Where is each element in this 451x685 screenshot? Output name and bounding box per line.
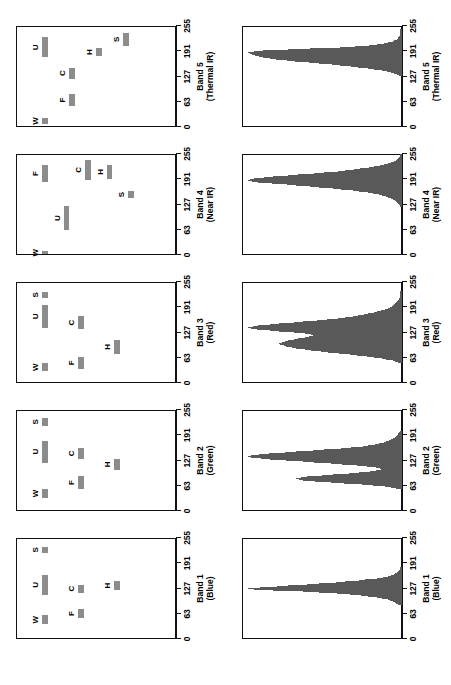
axis-tick [402,510,407,511]
histogram-panel [242,538,402,639]
axis-tick-label: 255 [408,403,418,417]
axis-tick-label: 0 [408,125,418,130]
signature-panel [16,410,176,511]
axis-tick [402,434,407,435]
class-tag-u: U [31,45,40,51]
band-name: Band 4 [195,190,205,218]
panel-group-a: 063127191255Band 1(Blue)063127191255Band… [228,0,450,685]
axis-tick [176,101,181,102]
axis-tick [176,613,181,614]
class-tag-f: F [67,360,76,365]
signature-range-bar [114,581,120,591]
class-tag-c: C [58,70,67,76]
signature-range-bar [78,476,84,489]
axis-tick-label: 0 [182,381,192,386]
axis-tick-label: 191 [408,301,418,315]
band-descriptor: (Green) [431,445,441,475]
band-label: Band 4(Near IR) [422,187,442,222]
axis-tick [176,229,181,230]
axis-tick-label: 255 [182,403,192,417]
axis-tick-label: 255 [182,147,192,161]
axis-tick-label: 127 [182,582,192,596]
histogram-series [242,538,402,639]
signature-panel [16,26,176,127]
signature-range-bar [78,609,84,619]
band-label: Band 3(Red) [196,318,216,346]
axis-tick-label: 63 [182,98,192,107]
class-tag-w: W [31,249,40,257]
panel-group-b: WFUCHS063127191255Band 1(Blue)WFUCHS0631… [2,0,224,685]
plot-frame [16,282,176,383]
axis-tick [402,332,407,333]
axis-tick-label: 255 [182,531,192,545]
axis-tick [176,50,181,51]
class-tag-c: C [67,586,76,592]
signature-range-bar [42,292,48,299]
axis-tick [176,332,181,333]
axis-tick-label: 255 [408,19,418,33]
signature-range-bar [64,206,70,231]
axis-tick-label: 0 [408,253,418,258]
axis-tick-label: 255 [408,147,418,161]
class-tag-c: C [67,320,76,326]
class-tag-h: H [103,462,112,468]
histogram-panel [242,154,402,255]
axis-tick-label: 127 [408,454,418,468]
band-descriptor: (Near IR) [205,187,215,222]
signature-range-bar [123,33,129,46]
axis-tick [402,101,407,102]
signature-range-bar [85,160,91,180]
axis-tick-label: 191 [408,45,418,59]
signature-range-bar [96,48,102,57]
axis-tick [176,306,181,307]
class-tag-u: U [53,215,62,221]
signature-range-bar [78,357,84,369]
axis-tick [176,357,181,358]
class-tag-h: H [96,169,105,175]
class-tag-s: S [117,192,126,197]
axis-tick [402,178,407,179]
class-tag-f: F [67,611,76,616]
axis-tick [402,76,407,77]
signature-range-bar [114,459,120,470]
axis-tick-label: 127 [408,582,418,596]
axis-tick-label: 127 [182,70,192,84]
class-tag-w: W [31,363,40,371]
band-descriptor: (Red) [431,322,441,344]
class-tag-f: F [67,480,76,485]
axis-tick-label: 0 [182,637,192,642]
class-tag-s: S [31,547,40,552]
band-name: Band 5 [421,62,431,90]
histogram-series [242,154,402,255]
axis-tick-label: 191 [182,173,192,187]
axis-tick-label: 0 [408,509,418,514]
axis-tick [176,588,181,589]
axis-tick-label: 191 [408,173,418,187]
axis-tick [176,25,181,26]
axis-tick-label: 63 [408,610,418,619]
class-tag-u: U [31,582,40,588]
axis-tick [176,562,181,563]
plot-frame [16,410,176,511]
band-label: Band 2(Green) [422,445,442,475]
histogram-panel [242,410,402,511]
band-label: Band 2(Green) [196,445,216,475]
histogram-panel [242,282,402,383]
axis-tick-label: 191 [408,429,418,443]
class-tag-c: C [67,450,76,456]
axis-tick [176,76,181,77]
axis-tick-label: 63 [182,354,192,363]
signature-panel [16,282,176,383]
class-tag-u: U [31,449,40,455]
axis-tick [176,409,181,410]
class-tag-w: W [31,616,40,624]
histogram-series [242,410,402,511]
signature-range-bar [78,448,84,459]
band-name: Band 3 [195,318,205,346]
signature-range-bar [78,316,84,328]
axis-tick [402,562,407,563]
axis-tick [402,204,407,205]
axis-tick [402,409,407,410]
band-descriptor: (Blue) [205,576,215,600]
axis-tick [402,485,407,486]
